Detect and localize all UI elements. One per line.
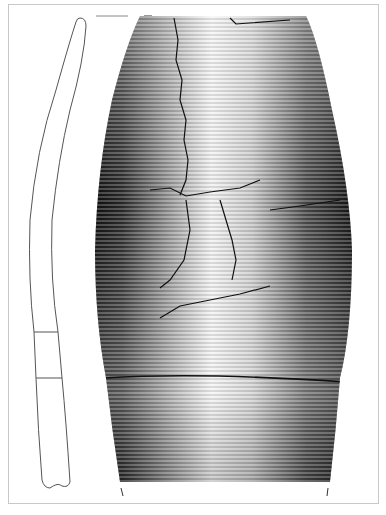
base-tick-right [327,488,328,496]
vessel-surface [90,10,360,490]
base-tick-left [121,488,123,496]
vessel-drawing [0,0,386,515]
profile-section [30,18,87,488]
